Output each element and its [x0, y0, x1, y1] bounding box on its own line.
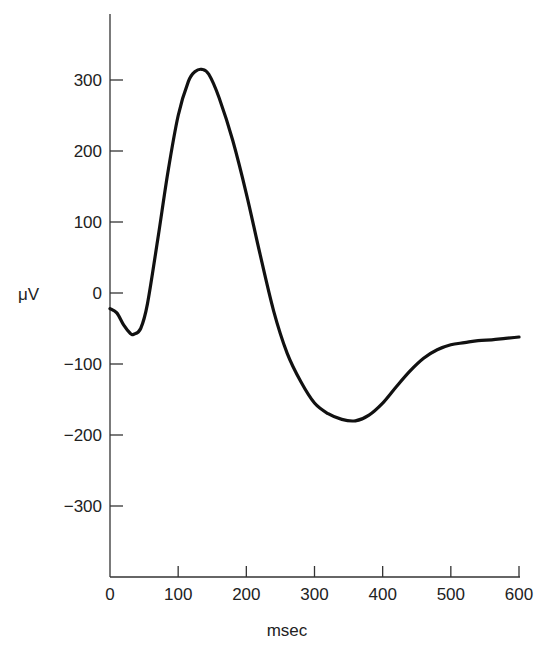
y-tick-label: 0 — [93, 284, 102, 303]
y-tick-label: 100 — [74, 213, 102, 232]
axes — [110, 14, 520, 577]
x-ticks: 0100200300400500600 — [105, 566, 533, 604]
series-group — [110, 69, 519, 421]
y-tick-label: −100 — [64, 355, 102, 374]
chart: 3002001000−100−200−300 01002003004005006… — [0, 0, 549, 649]
x-tick-label: 300 — [300, 585, 328, 604]
y-tick-label: −200 — [64, 426, 102, 445]
y-tick-label: 300 — [74, 71, 102, 90]
x-tick-label: 200 — [232, 585, 260, 604]
y-axis-title: μV — [18, 285, 40, 304]
y-tick-label: 200 — [74, 142, 102, 161]
x-tick-label: 100 — [164, 585, 192, 604]
x-tick-label: 600 — [505, 585, 533, 604]
y-tick-label: −300 — [64, 497, 102, 516]
x-tick-label: 0 — [105, 585, 114, 604]
y-ticks: 3002001000−100−200−300 — [64, 71, 123, 516]
x-tick-label: 500 — [437, 585, 465, 604]
series-line-waveform — [110, 69, 519, 421]
x-tick-label: 400 — [368, 585, 396, 604]
x-axis-title: msec — [267, 621, 308, 640]
